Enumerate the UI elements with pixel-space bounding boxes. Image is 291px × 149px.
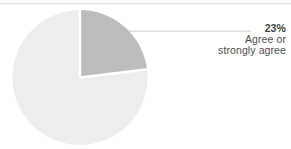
callout-line-2: strongly agree	[186, 45, 286, 56]
callout-label: 23% Agree or strongly agree	[186, 23, 286, 57]
pie-slice-highlight-icon	[80, 10, 147, 78]
pie-chart-figure: 23% Agree or strongly agree	[0, 0, 291, 149]
